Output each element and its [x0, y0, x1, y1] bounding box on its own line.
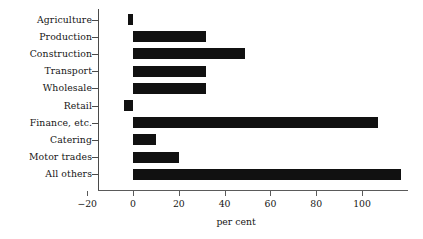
- y-axis-tick: [92, 174, 99, 175]
- x-axis-title: per cent: [216, 217, 255, 227]
- x-axis-tick: [316, 191, 317, 196]
- x-axis-tick-label: 80: [310, 199, 322, 209]
- x-axis-tick: [133, 191, 134, 196]
- x-axis-tick: [87, 191, 88, 196]
- y-axis-tick: [92, 88, 99, 89]
- x-axis-tick-label: 100: [353, 199, 371, 209]
- bar: [133, 134, 156, 145]
- bar: [133, 117, 378, 128]
- x-axis-tick: [179, 191, 180, 196]
- y-axis-tick: [92, 20, 99, 21]
- x-axis-tick: [270, 191, 271, 196]
- y-axis-tick: [92, 157, 99, 158]
- x-axis-tick-label: 20: [173, 199, 185, 209]
- x-axis-tick-label: 60: [264, 199, 276, 209]
- bar-chart: AgricultureProductionConstructionTranspo…: [0, 0, 423, 239]
- plot-area: −20020406080100per cent: [0, 0, 423, 239]
- bar: [133, 152, 179, 163]
- y-axis-tick: [92, 71, 99, 72]
- bar: [133, 83, 206, 94]
- bar: [124, 100, 133, 111]
- x-axis-tick-label: 40: [219, 199, 231, 209]
- bar: [133, 48, 245, 59]
- x-axis-tick-label: −20: [77, 199, 97, 209]
- bar: [133, 169, 401, 180]
- x-axis-tick-label: 0: [130, 199, 136, 209]
- y-axis-tick: [92, 54, 99, 55]
- bar: [128, 14, 133, 25]
- y-axis-tick: [92, 37, 99, 38]
- y-axis-tick: [92, 106, 99, 107]
- x-axis-tick: [225, 191, 226, 196]
- bar: [133, 31, 206, 42]
- y-axis-tick: [92, 140, 99, 141]
- bar: [133, 66, 206, 77]
- y-axis-tick: [92, 123, 99, 124]
- x-axis-tick: [362, 191, 363, 196]
